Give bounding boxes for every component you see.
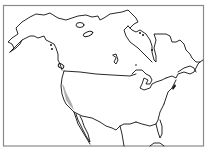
island-dot xyxy=(50,44,52,46)
island-dot xyxy=(51,48,53,50)
range-map xyxy=(0,0,211,151)
island-dot xyxy=(142,34,144,36)
map-border xyxy=(4,6,204,147)
island-dot xyxy=(135,64,137,66)
island-dot xyxy=(139,32,141,34)
island-dot xyxy=(151,49,153,51)
